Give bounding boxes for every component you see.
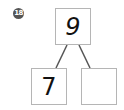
part-left-box: 7 [31,68,67,105]
part-right-answer-box[interactable] [81,68,117,105]
connector-right [79,45,90,68]
connector-left [56,45,67,68]
whole-box: 9 [55,8,91,45]
